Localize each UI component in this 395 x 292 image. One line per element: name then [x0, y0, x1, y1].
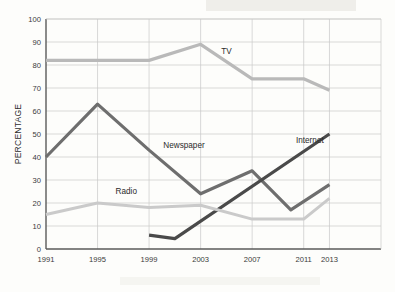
x-tick-label: 2011: [296, 255, 312, 264]
series-label-internet: Internet: [296, 136, 324, 145]
y-tick-label: 100: [28, 15, 41, 24]
y-axis-title: PERCENTAGE: [13, 104, 23, 165]
chart-page: 0102030405060708090100 19911995199920032…: [0, 0, 395, 292]
series-label-newspaper: Newspaper: [163, 141, 205, 150]
x-tick-label: 2007: [244, 255, 261, 264]
y-tick-label: 30: [33, 176, 41, 185]
y-axis-tick-labels: 0102030405060708090100: [28, 15, 41, 254]
x-tick-label: 2003: [192, 255, 209, 264]
y-tick-label: 0: [37, 245, 41, 254]
y-tick-label: 70: [33, 84, 41, 93]
x-tick-label: 1991: [38, 255, 55, 264]
line-chart: 0102030405060708090100 19911995199920032…: [0, 0, 395, 292]
y-tick-label: 20: [33, 199, 41, 208]
series-label-radio: Radio: [116, 187, 138, 196]
y-tick-label: 50: [33, 130, 41, 139]
x-tick-label: 1995: [89, 255, 106, 264]
x-tick-label: 1999: [141, 255, 158, 264]
y-tick-label: 90: [33, 38, 41, 47]
series-label-tv: TV: [221, 47, 232, 56]
series-line-radio: [46, 198, 329, 219]
series-labels: TVNewspaperInternetRadio: [116, 47, 325, 196]
y-tick-label: 80: [33, 61, 41, 70]
y-tick-label: 60: [33, 107, 41, 116]
series-line-tv: [46, 44, 329, 90]
x-tick-label: 2013: [321, 255, 338, 264]
x-axis-tick-labels: 1991199519992003200720112013: [38, 255, 338, 264]
y-tick-label: 40: [33, 153, 41, 162]
y-tick-label: 10: [33, 222, 41, 231]
horizontal-gridlines: [46, 19, 381, 226]
